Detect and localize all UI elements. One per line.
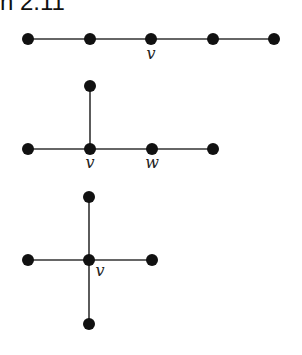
graph-node (84, 80, 96, 92)
star-graph: v (22, 191, 158, 330)
spider-graph: vw (22, 80, 219, 172)
graph-node (83, 191, 95, 203)
graph-node (146, 254, 158, 266)
graph-node (268, 33, 280, 45)
graph-node (83, 254, 95, 266)
path-graph: v (22, 33, 280, 63)
node-label: v (146, 44, 155, 63)
graph-node (207, 143, 219, 155)
graph-node (83, 318, 95, 330)
graph-diagram: vvwv (0, 0, 302, 355)
graph-node (207, 33, 219, 45)
node-label: w (145, 153, 159, 172)
graph-node (84, 33, 96, 45)
node-label: v (85, 153, 94, 172)
graph-node (22, 254, 34, 266)
node-label: v (95, 261, 104, 280)
graph-node (22, 143, 34, 155)
graph-node (22, 33, 34, 45)
